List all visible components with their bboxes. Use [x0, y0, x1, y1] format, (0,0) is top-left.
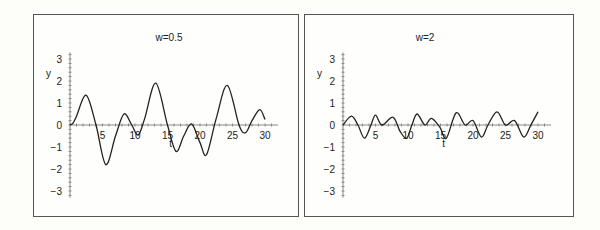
- y-tick-label: 1: [56, 98, 62, 109]
- y-tick-label: 2: [56, 76, 62, 87]
- x-tick-label: 5: [373, 130, 379, 141]
- y-tick-label: −2: [324, 164, 336, 175]
- y-tick-label: 2: [329, 76, 335, 87]
- y-tick-label: 0: [329, 120, 335, 131]
- y-tick-label: 1: [329, 98, 335, 109]
- plot-w05: w=0.5 y 3210−1−2−351015202530t: [34, 15, 300, 218]
- x-tick-label: 20: [467, 130, 479, 141]
- x-tick-label: 25: [227, 130, 239, 141]
- x-tick-label: 25: [500, 130, 512, 141]
- chart-panel-w2: w=2 y 3210−1−2−351015202530t: [304, 14, 574, 217]
- y-tick-label: −1: [51, 142, 63, 153]
- plot-w2: w=2 y 3210−1−2−351015202530t: [305, 15, 575, 218]
- y-tick-label: 0: [56, 120, 62, 131]
- y-axis-label: y: [46, 68, 51, 79]
- y-tick-label: 3: [329, 54, 335, 65]
- x-axis-label: t: [442, 138, 445, 149]
- y-axis-label: y: [317, 68, 322, 79]
- x-tick-label: 5: [100, 130, 106, 141]
- chart-panel-w05: w=0.5 y 3210−1−2−351015202530t: [33, 14, 299, 217]
- y-tick-label: −3: [324, 186, 336, 197]
- y-tick-label: −1: [324, 142, 336, 153]
- chart-title: w=0.5: [155, 32, 183, 43]
- y-tick-label: −2: [51, 164, 63, 175]
- y-tick-label: 3: [56, 54, 62, 65]
- chart-title: w=2: [415, 32, 435, 43]
- series-line: [70, 83, 265, 165]
- y-tick-label: −3: [51, 186, 63, 197]
- x-tick-label: 30: [532, 130, 544, 141]
- x-tick-label: 30: [259, 130, 271, 141]
